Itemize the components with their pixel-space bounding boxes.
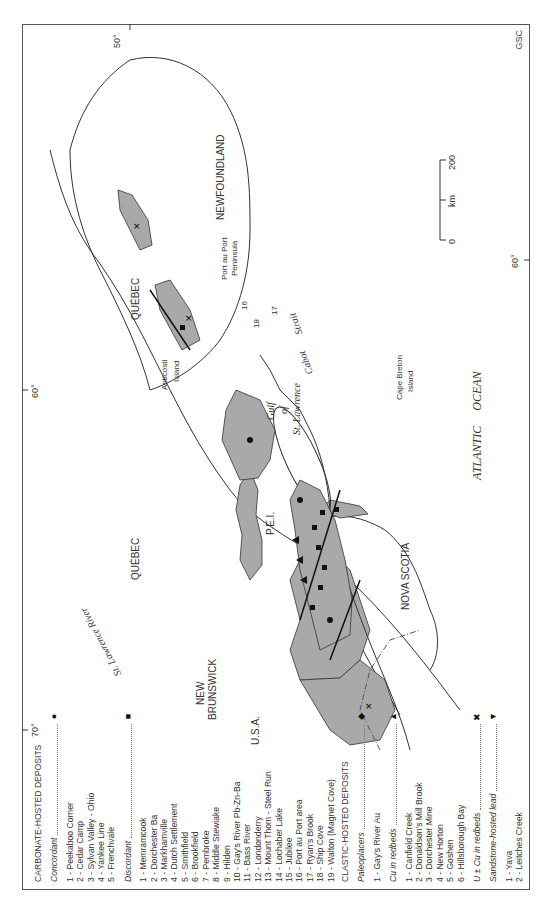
- label-cape-breton-island: Island: [406, 371, 415, 392]
- triangle-up-symbol-icon: ▲: [388, 712, 398, 721]
- legend-item: 2 - Dorchester Ba: [149, 712, 159, 882]
- lon-60-top-label: 60°: [30, 384, 40, 398]
- label-anticosti-island: Island: [172, 361, 181, 382]
- triangle-down-symbol-icon: ▼: [488, 712, 498, 721]
- label-pei: P.E.I.: [265, 512, 276, 535]
- gsc-credit: GSC: [514, 30, 524, 50]
- legend-item: 1 - Gay's River Au: [372, 712, 382, 882]
- legend-item: 19 - Walton (Magnet Cove): [326, 712, 336, 882]
- legend-item: 4 - New Horton: [435, 712, 445, 882]
- lon-60-bottom-label: 60°: [510, 254, 520, 268]
- legend-item: 3 - Sylvan Valley - Ohio: [86, 712, 96, 882]
- label-new: NEW: [195, 682, 206, 705]
- legend-item: 8 - Middle Stewiake: [211, 712, 221, 882]
- label-gulf-of: of: [278, 406, 289, 414]
- legend-item: 1 - Yava: [504, 712, 514, 882]
- cross-symbol-icon: ✖: [472, 712, 482, 721]
- legend-item: 5 - Smithfield: [180, 712, 190, 882]
- legend-concordant: Concordant ●: [49, 712, 59, 882]
- label-cape-breton: Cape Breton: [395, 355, 404, 400]
- legend-item: 2 - Cedar Camp: [75, 712, 85, 882]
- pei: [236, 470, 262, 580]
- legend: CARBONATE-HOSTED DEPOSITS Concordant ● 1…: [30, 712, 525, 882]
- legend-item: 4 - Yankee Line: [96, 712, 106, 882]
- svg-text:✕: ✕: [364, 702, 374, 710]
- label-nf-17: 17: [270, 306, 279, 315]
- svg-text:✕: ✕: [184, 314, 194, 322]
- newfoundland-deposit-north: [118, 190, 152, 250]
- legend-item: 6 - Hillsborough Bay: [456, 712, 466, 882]
- label-gulf-st-lawrence: St. Lawrence: [291, 383, 302, 435]
- label-quebec-gaspe: QUÉBEC: [130, 538, 141, 580]
- newfoundland-outline: [70, 57, 250, 390]
- label-gulf: Gulf: [265, 402, 276, 420]
- label-nova-scotia: NOVA SCOTIA: [400, 543, 411, 610]
- legend-item: 4 - Dutch Settlement: [169, 712, 179, 882]
- legend-item: 14 - Lochaber Lake: [274, 712, 284, 882]
- legend-item: 9 - Hilden: [222, 712, 232, 882]
- legend-clastic-title: CLASTIC-HOSTED DEPOSITS: [340, 712, 350, 882]
- rotated-figure: ✕ ✕ ✕ CARBONATE-HOSTED DEPOSITS Concorda…: [0, 0, 556, 910]
- legend-item: 1 - Memramcook: [138, 712, 148, 882]
- legend-item: 7 - Pembroke: [201, 712, 211, 882]
- legend-discordant: Discordant ■: [123, 712, 133, 882]
- legend-carbonate-title: CARBONATE-HOSTED DEPOSITS: [33, 712, 43, 882]
- scale-km-label: km: [447, 195, 457, 207]
- legend-item: 17 - Ryan's Brook: [305, 712, 315, 882]
- lon-70-label: 70°: [30, 723, 40, 737]
- legend-sandstone-lead: Sandstone-hosted lead ▼: [488, 712, 498, 882]
- legend-item: 15 - Jubilee: [284, 712, 294, 882]
- svg-text:✕: ✕: [132, 222, 142, 230]
- legend-item: 2 - Leitches Creek: [514, 712, 524, 882]
- label-brunswick: BRUNSWICK: [207, 659, 218, 720]
- legend-item: 5 - Goshen: [445, 712, 455, 882]
- legend-item: 1 - Peekaboo Corner: [65, 712, 75, 882]
- label-port-au-port: Port au Port: [220, 237, 229, 280]
- legend-item: 6 - Brookfield: [190, 712, 200, 882]
- label-quebec-north: QUÉBEC: [130, 278, 141, 320]
- legend-item: 10 - Gay's River Pb-Zn-Ba: [232, 712, 242, 882]
- label-port-au-port-peninsula: Peninsula: [230, 241, 239, 276]
- legend-item: 16 - Port au Port area: [294, 712, 304, 882]
- legend-cu-redbeds: Cu in redbeds ▲: [388, 712, 398, 882]
- legend-item: 3 - Dorchester Mine: [424, 712, 434, 882]
- diamond-symbol-icon: ◆: [356, 712, 366, 721]
- square-symbol-icon: ■: [123, 712, 133, 721]
- label-usa: U.S.A.: [250, 716, 261, 745]
- legend-item: 1 - Canfield Creek: [404, 712, 414, 882]
- circle-symbol-icon: ●: [49, 712, 59, 721]
- scale-bar: [440, 160, 446, 240]
- legend-paleoplacers: Paleoplacers ◆: [356, 712, 366, 882]
- legend-item: 5 - Frenchvale: [106, 712, 116, 882]
- label-newfoundland: NEWFOUNDLAND: [215, 134, 226, 220]
- legend-item: 13 - Mount Thom - Steel Run: [263, 712, 273, 882]
- legend-item: 3 - Markhamville: [159, 712, 169, 882]
- label-nf-18: 18: [252, 319, 261, 328]
- label-anticosti: Anticosti: [160, 360, 169, 390]
- scale-0-label: 0: [447, 239, 457, 244]
- legend-u-cu-redbeds: U ± Cu in redbeds ✖: [472, 712, 482, 882]
- lat-50-label: 50°: [112, 34, 122, 48]
- label-nf-16: 16: [240, 301, 249, 310]
- legend-item: 18 - Ship Cove: [315, 712, 325, 882]
- legend-item: 2 - Donaldson's Mill Brook: [414, 712, 424, 882]
- scale-200-label: 200: [447, 155, 457, 170]
- label-atlantic-ocean: ATLANTIC OCEAN: [470, 371, 485, 480]
